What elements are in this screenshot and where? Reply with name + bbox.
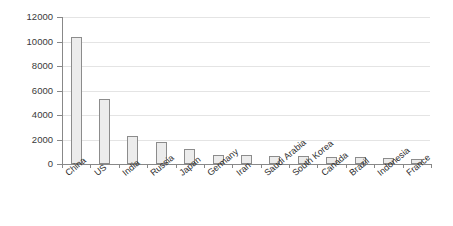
- y-tick-mark: [57, 17, 62, 18]
- y-tick-mark: [57, 140, 62, 141]
- x-tick-mark: [204, 164, 205, 168]
- x-tick-mark: [176, 164, 177, 168]
- x-tick-mark: [374, 164, 375, 168]
- y-axis-tick-label: 6000: [5, 86, 53, 96]
- x-tick-mark: [346, 164, 347, 168]
- bar: [99, 99, 110, 164]
- x-tick-mark: [403, 164, 404, 168]
- gridline: [62, 42, 430, 43]
- y-axis-tick-label: 2000: [5, 135, 53, 145]
- x-tick-mark: [289, 164, 290, 168]
- y-tick-mark: [57, 42, 62, 43]
- x-axis-tick-label: US: [93, 163, 108, 178]
- y-axis-line: [62, 17, 63, 165]
- y-axis-tick-label: 8000: [5, 61, 53, 71]
- x-tick-mark: [90, 164, 91, 168]
- gridline: [62, 115, 430, 116]
- plot-area: [62, 17, 430, 164]
- x-tick-mark: [232, 164, 233, 168]
- gridline: [62, 140, 430, 141]
- x-tick-mark: [261, 164, 262, 168]
- x-tick-mark: [431, 164, 432, 168]
- gridline: [62, 91, 430, 92]
- y-axis-tick-label: 0: [5, 159, 53, 169]
- y-axis-tick-label: 4000: [5, 110, 53, 120]
- y-tick-mark: [57, 66, 62, 67]
- y-axis-tick-label: 10000: [5, 37, 53, 47]
- bar: [71, 37, 82, 164]
- x-tick-mark: [317, 164, 318, 168]
- x-tick-mark: [147, 164, 148, 168]
- y-tick-mark: [57, 91, 62, 92]
- gridline: [62, 17, 430, 18]
- y-tick-mark: [57, 115, 62, 116]
- x-tick-mark: [62, 164, 63, 168]
- bar-chart: 12000 10000 8000 6000 4000 2000 0 ChinaU…: [0, 0, 453, 226]
- y-axis-tick-label: 12000: [5, 12, 53, 22]
- gridline: [62, 66, 430, 67]
- x-tick-mark: [119, 164, 120, 168]
